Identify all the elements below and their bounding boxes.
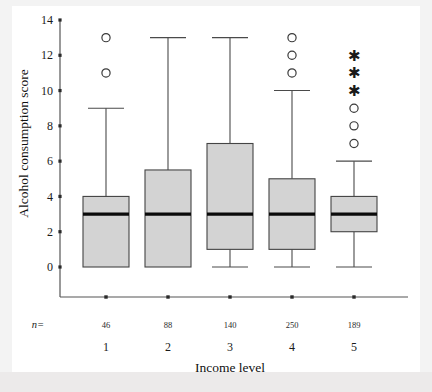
y-axis-tick	[58, 124, 61, 127]
n-prefix-label: n=	[32, 319, 44, 330]
x-axis-tick	[104, 295, 107, 298]
box-series: ✱✱✱	[83, 34, 377, 267]
extreme-marker: ✱	[348, 65, 361, 81]
group-count-label: 46	[102, 320, 111, 330]
figure-container: 02468101214 n=461882140325041895 ✱✱✱ Alc…	[0, 0, 432, 392]
x-axis-tick	[290, 295, 293, 298]
box-iqr-rect	[145, 170, 191, 267]
box-iqr-rect	[83, 196, 129, 267]
group-count-label: 250	[286, 320, 299, 330]
x-axis-category-label: 1	[103, 340, 109, 354]
group-count-label: 189	[348, 320, 361, 330]
outlier-marker	[102, 69, 110, 77]
x-axis-title: Income level	[195, 360, 265, 372]
outlier-marker	[288, 34, 296, 42]
y-axis-tick-label: 14	[41, 13, 53, 27]
boxplot-chart: 02468101214 n=461882140325041895 ✱✱✱ Alc…	[12, 6, 420, 372]
y-axis-tick-label: 2	[47, 225, 53, 239]
y-axis-tick	[58, 230, 61, 233]
y-axis-tick	[58, 54, 61, 57]
group-count-label: 140	[224, 320, 237, 330]
outlier-marker	[102, 34, 110, 42]
box-plot-group	[145, 38, 191, 267]
y-axis-tick-label: 12	[41, 48, 53, 62]
y-axis-title: Alcohol consumption score	[16, 69, 31, 217]
outlier-marker	[288, 51, 296, 59]
x-axis-tick	[352, 295, 355, 298]
x-axis-category-label: 4	[289, 340, 295, 354]
y-axis-tick-label: 6	[47, 154, 53, 168]
box-plot-group: ✱✱✱	[331, 48, 377, 267]
extreme-marker: ✱	[348, 83, 361, 99]
y-axis-tick	[58, 160, 61, 163]
outlier-marker	[350, 104, 358, 112]
y-axis-tick	[58, 195, 61, 198]
y-axis-tick	[58, 18, 61, 21]
y-axis: 02468101214	[41, 13, 62, 297]
y-axis-tick-label: 0	[47, 260, 53, 274]
x-axis-category-label: 3	[227, 340, 233, 354]
x-axis-tick	[228, 295, 231, 298]
x-axis-category-label: 2	[165, 340, 171, 354]
box-plot-group	[269, 34, 315, 267]
extreme-marker: ✱	[348, 48, 361, 64]
box-plot-group	[83, 34, 129, 267]
x-axis-tick	[166, 295, 169, 298]
x-axis: n=461882140325041895	[32, 295, 408, 354]
y-axis-tick	[58, 89, 61, 92]
y-axis-tick-label: 10	[41, 84, 53, 98]
group-count-label: 88	[164, 320, 173, 330]
outlier-marker	[350, 139, 358, 147]
y-axis-tick-label: 8	[47, 119, 53, 133]
outlier-marker	[288, 69, 296, 77]
plot-paper: 02468101214 n=461882140325041895 ✱✱✱ Alc…	[12, 6, 420, 372]
page-bottom-strip	[0, 372, 432, 392]
box-plot-group	[207, 38, 253, 267]
x-axis-category-label: 5	[351, 340, 357, 354]
outlier-marker	[350, 122, 358, 130]
y-axis-tick	[58, 265, 61, 268]
box-iqr-rect	[207, 144, 253, 250]
y-axis-tick-label: 4	[47, 190, 53, 204]
